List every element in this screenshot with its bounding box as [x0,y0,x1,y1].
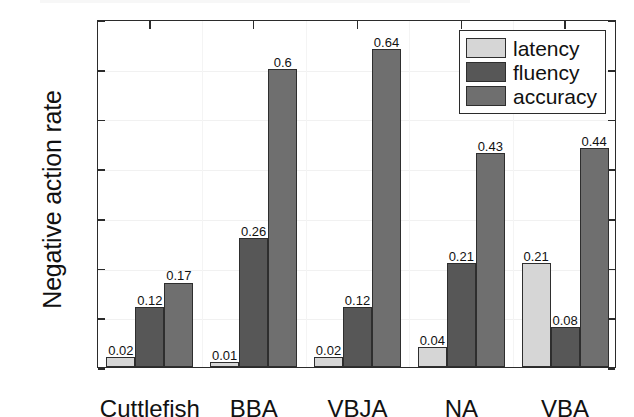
x-axis-tick-label: Cuttlefish [100,395,200,417]
bar-value-label: 0.44 [581,134,606,149]
bar-value-label: 0.17 [166,268,191,283]
y-axis-title: Negative action rate [38,30,67,370]
bar-value-label: 0.01 [212,348,237,363]
bar-value-label: 0.02 [108,343,133,358]
bar-value-label: 0.21 [523,249,548,264]
bar-accuracy-cuttlefish [164,283,193,368]
x-axis-tick-label: NA [445,395,478,417]
bar-value-label: 0.02 [316,343,341,358]
bar-latency-vbja [314,357,343,367]
chart-legend: latencyfluencyaccuracy [459,30,606,114]
scan-artifact [40,0,470,3]
bar-fluency-vbja [343,307,372,367]
bar-fluency-bba [239,238,268,367]
bar-fluency-cuttlefish [135,307,164,367]
bar-latency-na [418,347,447,367]
bar-fluency-na [447,263,476,367]
bar-value-label: 0.12 [345,293,370,308]
x-axis-tick-label: BBA [230,395,278,417]
y-axis-tick-right [608,368,615,370]
bar-value-label: 0.43 [478,139,503,154]
bar-value-label: 0.64 [374,35,399,50]
bar-value-label: 0.21 [449,249,474,264]
bar-value-label: 0.12 [137,293,162,308]
bar-latency-cuttlefish [106,357,135,367]
bar-accuracy-na [476,153,505,367]
legend-label-accuracy: accuracy [513,86,597,107]
legend-item-accuracy: accuracy [466,84,597,108]
legend-swatch-fluency [466,62,506,82]
legend-label-latency: latency [513,38,580,59]
bar-fluency-vba [551,327,580,367]
bar-latency-vba [522,263,551,367]
bar-accuracy-vba [580,148,609,367]
bar-value-label: 0.26 [241,224,266,239]
bar-accuracy-vbja [372,49,401,367]
legend-item-fluency: fluency [466,60,597,84]
legend-swatch-latency [466,38,506,58]
x-axis-tick-label: VBJA [327,395,387,417]
legend-swatch-accuracy [466,86,506,106]
bar-value-label: 0.6 [274,55,292,70]
plot-area: 00.10.20.30.40.50.60.7CuttlefishBBAVBJAN… [97,20,616,368]
bar-accuracy-bba [268,69,297,367]
bar-value-label: 0.04 [420,333,445,348]
bar-value-label: 0.08 [552,313,577,328]
x-axis-tick-label: VBA [541,395,589,417]
legend-item-latency: latency [466,36,597,60]
y-axis-tick [98,368,105,370]
bar-chart-figure: Negative action rate 00.10.20.30.40.50.6… [0,0,634,417]
legend-label-fluency: fluency [513,62,580,83]
